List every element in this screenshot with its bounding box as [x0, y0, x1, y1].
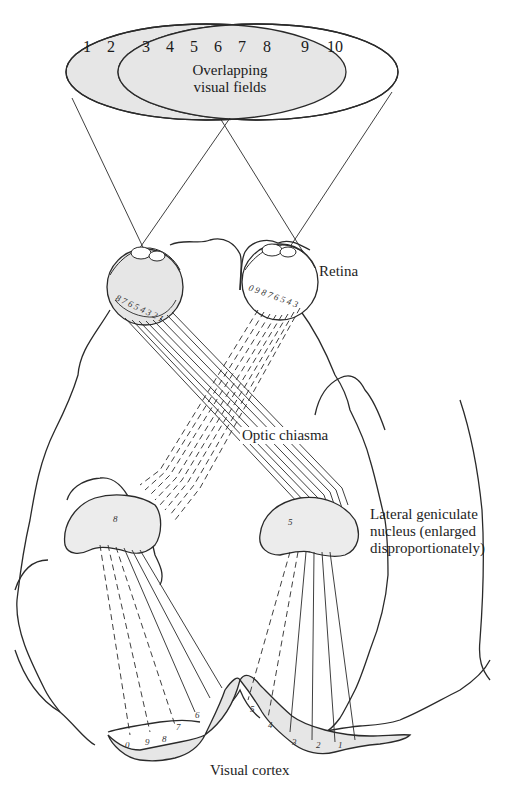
visual-cortex-label: Visual cortex — [210, 762, 290, 779]
svg-text:4: 4 — [268, 720, 273, 730]
svg-text:5: 5 — [288, 517, 293, 527]
brain-outline — [15, 239, 490, 745]
field-number-5: 5 — [190, 38, 198, 56]
left-eye: 8 7 6 5 4 3 2 1 — [107, 247, 183, 325]
field-number-9: 9 — [301, 38, 309, 56]
field-number-8: 8 — [263, 38, 271, 56]
field-number-4: 4 — [166, 38, 174, 56]
left-lgn — [65, 495, 161, 553]
svg-text:7: 7 — [176, 722, 181, 732]
svg-text:0: 0 — [125, 740, 130, 750]
field-number-3: 3 — [142, 38, 150, 56]
overlap-label-line1: Overlapping — [160, 62, 300, 79]
retina-label: Retina — [319, 263, 358, 280]
svg-text:8: 8 — [113, 514, 118, 524]
svg-text:3: 3 — [291, 737, 297, 747]
lgn-label: Lateral geniculate nucleus (enlarged dis… — [370, 506, 485, 557]
svg-text:5: 5 — [250, 704, 255, 714]
right-eye: 0 9 8 7 6 5 4 3 — [242, 244, 318, 320]
optic-chiasma-label: Optic chiasma — [240, 427, 330, 444]
field-number-6: 6 — [214, 38, 222, 56]
field-number-7: 7 — [238, 38, 246, 56]
left-optic-radiations — [100, 545, 222, 735]
svg-text:1: 1 — [338, 740, 343, 750]
lgn-label-line1: Lateral geniculate — [370, 506, 485, 523]
lgn-label-line2: nucleus (enlarged — [370, 523, 485, 540]
field-number-10: 10 — [327, 38, 343, 56]
left-eye-fibers — [125, 312, 348, 520]
field-number-2: 2 — [107, 38, 115, 56]
svg-text:6: 6 — [195, 710, 200, 720]
visual-pathway-diagram: 8 7 6 5 4 3 2 1 0 9 8 7 6 5 4 3 — [0, 0, 532, 789]
right-visual-cortex — [240, 675, 410, 753]
lgn-label-line3: disproportionately) — [370, 540, 485, 557]
right-lgn — [260, 497, 359, 556]
svg-text:8: 8 — [162, 734, 167, 744]
svg-text:2: 2 — [316, 740, 321, 750]
overlapping-visual-fields-label: Overlapping visual fields — [160, 62, 300, 96]
svg-text:9: 9 — [145, 737, 150, 747]
field-number-1: 1 — [83, 38, 91, 56]
overlap-label-line2: visual fields — [160, 79, 300, 96]
